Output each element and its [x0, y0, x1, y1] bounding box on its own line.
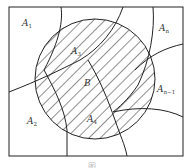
label-an-minus-1: An−1: [156, 84, 175, 95]
label-b: B: [83, 78, 91, 88]
label-a2: A2: [26, 116, 37, 127]
label-an: An: [158, 23, 170, 34]
label-a1: A1: [21, 18, 32, 29]
partition-diagram: A1 A3 An B An−1 A2 A4 图: [0, 0, 184, 168]
figure-caption: 图: [88, 162, 96, 168]
